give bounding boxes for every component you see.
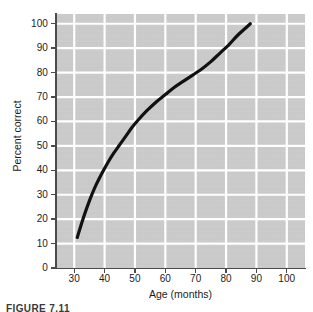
y-tick-label: 100: [8, 19, 48, 29]
figure-caption: FIGURE 7.11: [6, 303, 70, 312]
y-tick-mark: [51, 145, 55, 146]
y-tick-mark: [51, 218, 55, 219]
y-tick-mark: [51, 194, 55, 195]
y-tick-mark: [51, 72, 55, 73]
x-tick-label: 100: [267, 274, 307, 284]
y-tick-mark: [51, 23, 55, 24]
y-tick-label: 10: [8, 239, 48, 249]
plot-area: [56, 14, 305, 268]
y-tick-label: 0: [8, 263, 48, 273]
figure-container: 0102030405060708090100 30405060708090100…: [0, 0, 313, 312]
data-series-line: [56, 14, 305, 268]
y-tick-mark: [51, 47, 55, 48]
x-axis-title: Age (months): [56, 288, 305, 300]
y-tick-mark: [51, 96, 55, 97]
y-tick-mark: [51, 267, 55, 268]
y-tick-mark: [51, 170, 55, 171]
y-tick-label: 20: [8, 214, 48, 224]
x-axis-line: [55, 268, 306, 270]
y-tick-mark: [51, 121, 55, 122]
y-tick-mark: [51, 243, 55, 244]
y-axis-title: Percent correct: [11, 71, 23, 201]
y-tick-label: 90: [8, 43, 48, 53]
y-axis-line: [55, 13, 57, 269]
